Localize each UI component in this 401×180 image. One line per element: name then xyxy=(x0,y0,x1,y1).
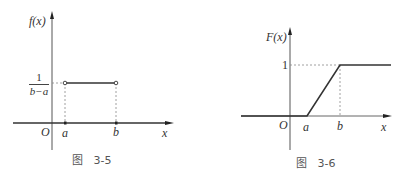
level-one-label: 1 xyxy=(282,59,288,71)
cdf-curve xyxy=(241,65,391,116)
cdf-plot xyxy=(0,0,401,180)
y-axis-arrow-icon xyxy=(288,27,292,35)
x-axis-label: x xyxy=(381,121,386,133)
figure-caption: 图 3-6 xyxy=(296,158,335,169)
tick-b-label: b xyxy=(337,120,343,132)
origin-label: O xyxy=(279,119,288,131)
tick-a-label: a xyxy=(303,121,309,133)
x-axis-arrow-icon xyxy=(383,114,392,118)
y-axis-label: F(x) xyxy=(266,31,287,43)
